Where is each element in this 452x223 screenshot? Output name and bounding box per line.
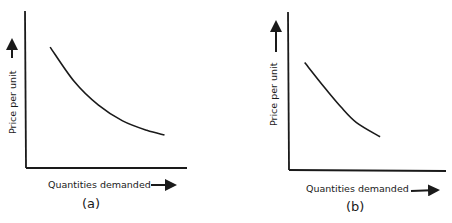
x-axis-label: Quantities demanded	[306, 183, 409, 194]
x-axis-arrow-icon	[411, 190, 438, 191]
demand-curve	[305, 63, 380, 137]
y-axis	[288, 12, 289, 170]
y-axis-label: Price per unit	[7, 70, 18, 134]
y-axis-label: Price per unit	[268, 62, 279, 126]
chart-panel-a: Price per unit Quantities demanded (a)	[7, 11, 187, 211]
demand-curve-figure: Price per unit Quantities demanded (a) P…	[0, 0, 452, 223]
panel-caption: (a)	[82, 196, 100, 211]
demand-curve	[50, 47, 164, 135]
x-axis-label: Quantities demanded	[48, 179, 151, 190]
panel-caption: (b)	[346, 199, 364, 214]
chart-panel-b: Price per unit Quantities demanded (b)	[268, 12, 446, 214]
x-axis	[289, 170, 446, 171]
y-axis	[25, 11, 26, 168]
